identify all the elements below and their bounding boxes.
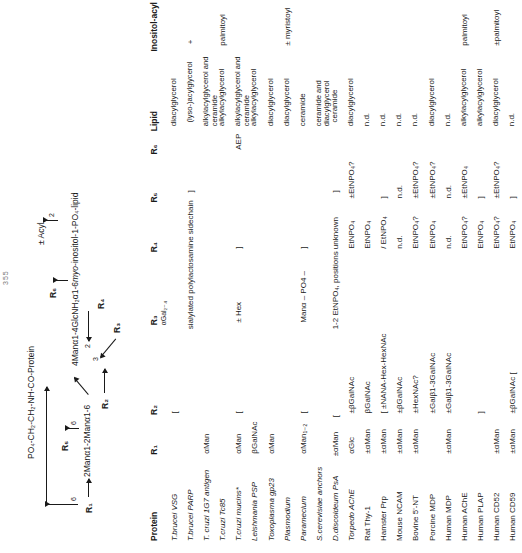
table-row: Human CD52±αManEtNPO₄?±EtNPO₄?diacylglyc… [492, 2, 508, 547]
cell-protein: Human MDP [444, 454, 453, 547]
header-r6: R₆ [150, 131, 159, 154]
cell-protein: Rat Thy-1 [363, 454, 372, 547]
cell-r6: AEP [234, 126, 243, 150]
cell-protein: Plasmodium [283, 454, 292, 547]
diagram-core-left: 2Manα1-2Manα1-6 [82, 405, 92, 477]
cell-protein: D.discoideum PsA [331, 456, 340, 547]
cell-lipid: diacylglycerol [170, 46, 179, 127]
diagram-branch-3: 3 [92, 357, 99, 361]
cell-r1: αMan₁₋₂ [299, 413, 308, 453]
table-row: Bovine 5'-NT±αMan±HexNAc?EtNPO₄?±EtNPO₄?… [411, 2, 427, 547]
table-row: T.cruzi mucins*αMan[± Hex]AEPalkylacylgl… [234, 2, 250, 547]
diagram-branch-2a: 2 [84, 344, 91, 348]
cell-r1: ±αMan [379, 413, 388, 453]
diagram-acyl-label: ± Acyl [36, 222, 46, 245]
cell-lipid: ceramide [299, 46, 308, 127]
table-row: Human PLAP]EtNPO₄]alkylacylglycerol [476, 2, 492, 547]
cell-protein: Human CD52 [492, 454, 501, 547]
table-row: Toxoplasma gp23αMandiacylglycerol [267, 2, 283, 547]
cell-lipid: n.d. [508, 46, 517, 127]
cell-inositol: palmitoyl [460, 2, 469, 46]
cell-lipid: (lyso-)acylglycerol [186, 44, 194, 122]
cell-r5: ] [331, 145, 340, 192]
cell-r2: ±Galβ1-3GalNAc [444, 323, 453, 414]
header-r4: R₄ [150, 203, 159, 253]
diagram-protein-backbone: PO₄-CH₂-CH₂-NH-CO-Protein [26, 346, 36, 459]
cell-r5: ±EtNPO₄? [411, 150, 420, 199]
header-r5: R₅ [150, 154, 159, 202]
cell-protein: T. cruzi 1G7 antigen [202, 454, 211, 547]
arrow-r4 [88, 311, 89, 341]
header-protein: Protein [150, 455, 159, 547]
cell-r2: [ ±NANA-Hex-HexNAc [379, 323, 388, 414]
cell-protein: Porcine MDP [428, 454, 437, 547]
cell-r3: 1-2 EtNPO₄, positions unknown [331, 241, 340, 329]
diagram-r1-label: R₁ [84, 503, 94, 513]
cell-r2: ±βGalNAc [347, 323, 356, 414]
cell-lipid: diacylglycerol [492, 46, 501, 127]
arrow-r2 [104, 369, 105, 393]
cell-lipid: n.d. [395, 46, 404, 127]
cell-r4: EtNPO₄ [347, 198, 356, 248]
cell-r4: EtNPO₄ [363, 198, 372, 248]
cell-lipid: n.d. [379, 46, 388, 127]
table-row: ParameciumαMan₁₋₂[Manα – PO4 –]ceramide [299, 2, 315, 547]
cell-r4: EtNPO₄? [411, 198, 420, 248]
diagram-branch-6b: 6 [70, 421, 77, 425]
page-number: 355 [2, 270, 9, 285]
header-r3-sub: αGal₂₋₄ [160, 301, 167, 326]
cell-r2: ±HexNAc? [411, 323, 420, 414]
cell-r1: ±αMan [331, 417, 340, 456]
cell-r1: αMan [234, 413, 243, 453]
cell-r5: ] [186, 145, 195, 192]
cell-lipid: n.d. [444, 46, 453, 127]
header-r3: R₃αGal₂₋₄ [150, 252, 168, 325]
cell-r4: n.d. [444, 198, 453, 248]
arrow-core-branch [74, 378, 89, 395]
cell-r3: sialylated polylactosamine sidechain [186, 241, 195, 329]
cell-r1: αMan [202, 413, 211, 453]
arrow-backbone-line [46, 387, 47, 505]
cell-lipid: ceramide [331, 44, 340, 122]
cell-r4: ] [234, 198, 243, 248]
table-row: Hamster Prp±αMan[ ±NANA-Hex-HexNAc/ EtNP… [379, 2, 395, 547]
header-r3-text: R₃ [149, 315, 159, 325]
table-row: Rat Thy-1±αManβGalNAcEtNPO₄n.d. [363, 2, 379, 547]
diagram-core-myo: myo [70, 266, 80, 282]
cell-inositol: palmitoyl [218, 2, 227, 46]
table-row: Human CD59±αMan±βGalNAc [EtNPO₄]n.d. [508, 2, 522, 547]
cell-lipid: diacylglycerol [267, 46, 276, 127]
table-row: Human MDP±αMan±Galβ1-3GalNAcn.d.n.d.n.d. [444, 2, 460, 547]
cell-r2: [ [299, 323, 308, 414]
cell-r4: EtNPO₄ [428, 198, 437, 248]
cell-protein: T.cruzi mucins* [234, 454, 243, 547]
arrow-r1 [88, 479, 89, 497]
cell-protein: Human CD59 [508, 454, 517, 547]
table-row: S.cerevisiae anchorsceramide and diacylg… [315, 2, 331, 547]
cell-inositol: + [186, 2, 195, 44]
header-inositol-acyl: Inositol-acyl [150, 2, 159, 52]
cell-r4: n.d. [395, 198, 404, 248]
cell-lipid: diacylglycerol [428, 46, 437, 127]
table-row: T.brucei VSG[diacylglycerol [170, 2, 186, 547]
cell-protein: Human AChE [460, 454, 469, 547]
cell-r1: ±αMan [492, 413, 501, 453]
cell-r1: ±αMan [395, 413, 404, 453]
cell-r1: ±αMan [444, 413, 453, 453]
arrow-r3 [100, 339, 116, 358]
diagram-r3-label: R₃ [112, 323, 122, 333]
arrow-acyl [44, 220, 58, 221]
cell-protein: T.cruzi Tc85 [218, 454, 227, 547]
cell-protein: Torpedo AChE [347, 454, 356, 547]
table-row: Torpedo AChEαGlc±βGalNAcEtNPO₄±EtNPO₄?di… [347, 2, 363, 547]
arrow-backbone-to-core [46, 504, 78, 505]
cell-r5: n.d. [444, 150, 453, 199]
cell-r5: ] [379, 150, 388, 199]
diagram-r4-label: R₄ [96, 299, 106, 309]
cell-r4: EtNPO₄? [460, 198, 469, 248]
cell-r2: ±Galβ1-3GalNAc [428, 323, 437, 414]
cell-r5: ±EtNPO₄? [347, 150, 356, 199]
table-row: T.brucei PARPsialylated polylactosamine … [186, 2, 202, 547]
diagram-branch-2b: 2 [48, 213, 55, 217]
